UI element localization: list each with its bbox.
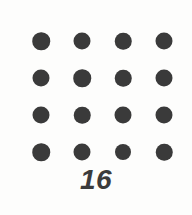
dot <box>156 144 173 161</box>
dot <box>33 107 50 124</box>
dot <box>32 32 50 50</box>
dot <box>115 70 132 87</box>
counting-card: 16 <box>0 0 192 215</box>
dot <box>115 144 131 160</box>
dot <box>115 33 132 50</box>
dot <box>74 33 91 50</box>
dot <box>73 69 91 87</box>
dot <box>115 107 132 124</box>
dot <box>156 107 173 124</box>
dot <box>74 107 91 124</box>
dot <box>33 70 50 87</box>
dot <box>156 33 173 50</box>
dot <box>32 143 50 161</box>
dot <box>156 70 173 87</box>
dot <box>74 144 91 161</box>
count-label: 16 <box>0 165 192 195</box>
